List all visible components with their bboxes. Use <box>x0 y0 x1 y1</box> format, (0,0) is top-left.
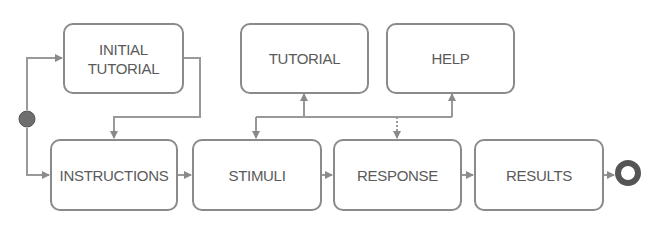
node-label: HELP <box>432 49 470 68</box>
node-instructions: INSTRUCTIONS <box>50 139 178 211</box>
node-initial-tutorial: INITIAL TUTORIAL <box>63 23 184 94</box>
end-node-icon <box>618 163 638 183</box>
node-label: TUTORIAL <box>269 49 341 68</box>
node-stimuli: STIMULI <box>192 139 322 211</box>
edge-start-instructions <box>27 128 49 175</box>
node-results: RESULTS <box>474 139 604 211</box>
node-label: RESPONSE <box>357 166 438 185</box>
node-label: INITIAL TUTORIAL <box>88 40 160 78</box>
node-response: RESPONSE <box>333 139 462 211</box>
start-node-icon <box>19 111 35 127</box>
edge-start-initial-tutorial <box>27 58 62 110</box>
node-help: HELP <box>386 23 515 94</box>
node-tutorial: TUTORIAL <box>240 23 369 94</box>
node-label: RESULTS <box>506 166 572 185</box>
node-label: INSTRUCTIONS <box>60 166 169 185</box>
node-label: STIMULI <box>228 166 285 185</box>
